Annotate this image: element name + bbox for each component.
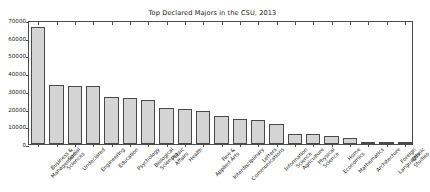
y-axis-tick-mark [26,57,29,58]
x-axis-tick-mark [148,144,149,147]
y-axis-tick-label: 40000 [0,71,26,77]
bar [178,109,193,144]
x-axis-tick-mark-top [350,22,351,25]
x-axis-tick-mark-top [222,22,223,25]
x-axis-tick-mark [57,144,58,147]
plot-area [29,22,412,144]
y-axis-tick-label: 0 [0,142,26,148]
bar [196,111,211,144]
bar [324,136,339,144]
x-axis-tick-mark [203,144,204,147]
x-axis-tick-mark [130,144,131,147]
plot-frame [28,21,413,145]
x-axis-tick-mark [277,144,278,147]
bar [68,86,83,144]
y-axis-tick-mark [26,93,29,94]
bar [251,120,266,144]
bar [269,124,284,144]
bar [123,98,138,144]
x-axis-tick-mark [222,144,223,147]
x-axis-tick-mark-top [387,22,388,25]
y-axis-tick-mark [26,75,29,76]
x-axis-tick-mark [387,144,388,147]
x-axis-tick-mark-top [295,22,296,25]
bar [49,85,64,144]
bar [141,100,156,144]
x-axis-tick-mark-top [93,22,94,25]
x-axis-tick-mark-top [112,22,113,25]
x-axis-tick-label-line: Health [188,147,204,163]
x-axis-tick-mark-top [185,22,186,25]
bar [159,108,174,144]
bar [104,97,119,144]
x-axis-tick-mark [167,144,168,147]
x-axis-tick-mark-top [167,22,168,25]
x-axis-tick-mark [405,144,406,147]
y-axis-tick-mark [26,146,29,147]
x-axis-tick-mark-top [332,22,333,25]
x-axis-tick-mark-top [277,22,278,25]
x-axis-tick-mark-top [57,22,58,25]
bar [86,86,101,144]
bar [306,134,321,144]
y-axis-tick-label: 10000 [0,124,26,130]
x-axis-tick-mark [93,144,94,147]
y-axis-tick-mark [26,128,29,129]
x-axis-tick-mark-top [130,22,131,25]
bar [214,116,229,144]
x-axis-tick-mark-top [240,22,241,25]
x-axis-tick-mark [38,144,39,147]
x-axis-tick-mark [112,144,113,147]
bar [233,119,248,145]
x-axis-tick-mark-top [258,22,259,25]
x-axis-tick-mark [240,144,241,147]
x-axis-tick-mark-top [38,22,39,25]
y-axis-tick-label: 30000 [0,89,26,95]
x-axis-tick-label: Health [188,147,204,163]
y-axis-tick-label: 70000 [0,18,26,24]
chart-title: Top Declared Majors in the CSU, 2013 [0,9,425,17]
x-axis-tick-mark-top [75,22,76,25]
y-axis-tick-mark [26,22,29,23]
x-axis-tick-mark-top [148,22,149,25]
y-axis-tick-mark [26,40,29,41]
x-axis-tick-mark [313,144,314,147]
y-axis-tick-label: 50000 [0,53,26,59]
x-axis-tick-mark [368,144,369,147]
x-axis-tick-mark [295,144,296,147]
x-axis-tick-mark-top [313,22,314,25]
bar [31,27,46,144]
x-axis-tick-mark-top [368,22,369,25]
x-axis-tick-mark-top [203,22,204,25]
y-axis-tick-mark [26,111,29,112]
bar [288,134,303,144]
y-axis-tick-label: 20000 [0,107,26,113]
x-axis-tick-mark [185,144,186,147]
x-axis-tick-mark [350,144,351,147]
y-axis-tick-label: 60000 [0,36,26,42]
x-axis-tick-mark-top [405,22,406,25]
